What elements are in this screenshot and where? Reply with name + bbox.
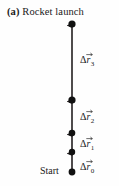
vector-label-dr3: Δr3 bbox=[80, 55, 94, 69]
subscript-dr1: 1 bbox=[91, 144, 95, 152]
position-dot-2 bbox=[69, 130, 76, 137]
vector-label-dr0: Δr0 bbox=[80, 162, 94, 176]
r-symbol-dr0: r bbox=[86, 161, 90, 172]
r-symbol-dr2: r bbox=[86, 111, 90, 122]
position-dot-3 bbox=[68, 96, 75, 103]
position-dot-1 bbox=[69, 149, 75, 155]
start-label: Start bbox=[40, 165, 59, 176]
position-dot-start bbox=[69, 169, 76, 176]
vector-label-dr1: Δr1 bbox=[80, 139, 94, 153]
r-symbol-dr3: r bbox=[86, 54, 90, 65]
vector-label-dr2: Δr2 bbox=[80, 112, 94, 126]
rocket-launch-figure: (a) Rocket launch Δ bbox=[0, 0, 119, 186]
subscript-dr2: 2 bbox=[91, 117, 95, 125]
r-symbol-dr1: r bbox=[86, 138, 90, 149]
displacement-vector-diagram bbox=[0, 0, 119, 186]
subscript-dr3: 3 bbox=[91, 60, 95, 68]
position-dot-top bbox=[68, 20, 75, 27]
subscript-dr0: 0 bbox=[91, 167, 95, 175]
